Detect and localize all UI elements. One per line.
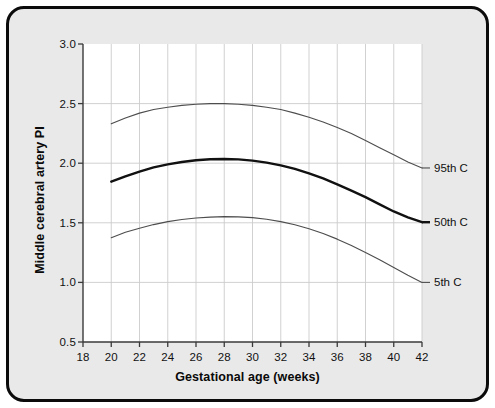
x-tick-label: 40 <box>387 351 400 363</box>
label-50th: 50th C <box>434 216 468 228</box>
x-tick-label: 38 <box>359 351 372 363</box>
y-axis-title: Middle cerebral artery PI <box>33 100 47 300</box>
x-tick-label: 22 <box>133 351 146 363</box>
label-95th: 95th C <box>434 162 468 174</box>
x-tick-label: 36 <box>331 351 344 363</box>
x-tick-label: 24 <box>161 351 174 363</box>
label-5th: 5th C <box>434 276 462 288</box>
x-tick-label: 20 <box>105 351 118 363</box>
mca-pi-reference-chart: 0.51.01.52.02.53.0 182022242628303234363… <box>0 0 495 408</box>
y-tick-label: 0.5 <box>40 336 76 348</box>
x-tick-label: 32 <box>274 351 287 363</box>
x-tick-label: 30 <box>246 351 259 363</box>
x-tick-label: 34 <box>302 351 315 363</box>
x-tick-label: 26 <box>189 351 202 363</box>
x-tick-label: 18 <box>76 351 89 363</box>
x-axis-title: Gestational age (weeks) <box>0 370 495 384</box>
y-tick-label: 3.0 <box>40 38 76 50</box>
x-tick-label: 42 <box>415 351 428 363</box>
x-tick-label: 28 <box>218 351 231 363</box>
